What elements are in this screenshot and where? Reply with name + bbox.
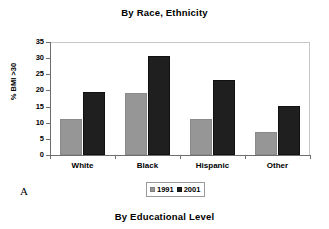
y-axis-tick	[46, 107, 50, 108]
legend-label-1991: 1991	[157, 185, 174, 194]
figure-panel-a: By Race, Ethnicity A % BMI >30 051015202…	[0, 0, 329, 229]
y-axis-line	[50, 42, 51, 156]
bar-white-1991	[60, 119, 82, 155]
y-axis-tick	[46, 139, 50, 140]
bar-black-2001	[148, 56, 170, 155]
y-axis-tick	[46, 123, 50, 124]
x-axis-tick	[180, 155, 181, 159]
y-axis-tick-label: 30	[20, 54, 44, 62]
x-axis-tick	[310, 155, 311, 159]
y-axis-tick-label: 25	[20, 70, 44, 78]
panel-letter-label: A	[20, 185, 28, 197]
next-chart-title: By Educational Level	[0, 211, 329, 222]
bar-white-2001	[83, 92, 105, 155]
x-axis-label-other: Other	[243, 161, 313, 170]
bar-black-1991	[125, 93, 147, 155]
y-axis-tick-label: 10	[20, 119, 44, 127]
legend-label-2001: 2001	[184, 185, 201, 194]
legend-entry-1991: 1991	[150, 185, 174, 194]
y-axis-tick-label: 5	[20, 135, 44, 143]
legend-swatch-1991	[150, 187, 155, 192]
y-axis-tick	[46, 90, 50, 91]
y-axis-tick-label: 15	[20, 103, 44, 111]
chart-legend: 19912001	[146, 182, 205, 197]
bar-hispanic-1991	[190, 119, 212, 155]
y-axis-tick	[46, 58, 50, 59]
x-axis-label-white: White	[48, 161, 118, 170]
bar-other-1991	[255, 132, 277, 155]
x-axis-label-black: Black	[113, 161, 183, 170]
bar-other-2001	[278, 106, 300, 155]
y-axis-title: % BMI >30	[9, 42, 18, 122]
y-axis-tick-label: 20	[20, 86, 44, 94]
y-axis-tick-label: 35	[20, 38, 44, 46]
x-axis-tick	[50, 155, 51, 159]
y-axis-tick	[46, 42, 50, 43]
x-axis-tick	[245, 155, 246, 159]
legend-swatch-2001	[177, 187, 182, 192]
x-axis-tick	[115, 155, 116, 159]
x-axis-label-hispanic: Hispanic	[178, 161, 248, 170]
legend-entry-2001: 2001	[177, 185, 201, 194]
y-axis-tick-label: 0	[20, 151, 44, 159]
chart-title: By Race, Ethnicity	[0, 7, 329, 18]
bar-hispanic-2001	[213, 80, 235, 155]
y-axis-tick	[46, 74, 50, 75]
